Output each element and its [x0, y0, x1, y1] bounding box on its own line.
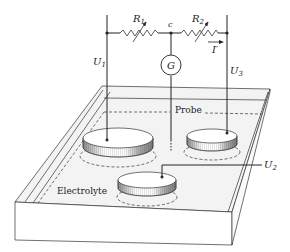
resistor-r1 — [120, 22, 158, 42]
current-arrow: I′ — [208, 40, 224, 55]
electrolyte-label: Electrolyte — [57, 186, 107, 196]
junction-left — [105, 31, 108, 34]
u1-label: U1 — [93, 56, 106, 69]
r2-label: R2 — [191, 13, 205, 26]
diagram-canvas: G I′ R1 R2 c U1 U3 U2 Probe Electrolyte — [0, 0, 290, 252]
u3-label: U3 — [230, 65, 243, 78]
galvanometer-label: G — [167, 60, 175, 71]
r1-label: R1 — [132, 13, 145, 26]
current-label: I′ — [211, 44, 219, 55]
junction-right — [225, 31, 228, 34]
galvanometer: G — [161, 55, 181, 75]
node-c-label: c — [168, 20, 173, 29]
probe-label: Probe — [175, 105, 202, 115]
junction-c — [169, 31, 172, 34]
u2-label: U2 — [264, 159, 277, 172]
